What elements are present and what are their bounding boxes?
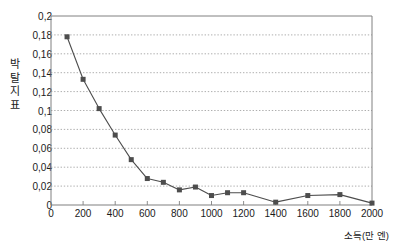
data-point-marker[interactable] <box>65 34 70 39</box>
data-point-marker[interactable] <box>225 190 230 195</box>
x-axis-ticks <box>83 201 372 205</box>
data-point-marker[interactable] <box>81 77 86 82</box>
data-point-marker[interactable] <box>177 187 182 192</box>
data-point-marker[interactable] <box>305 193 310 198</box>
plot-area <box>0 0 399 247</box>
data-point-marker[interactable] <box>113 133 118 138</box>
chart-container: 박 탈 지 표 0,20,180,160,140,120,10,080,060,… <box>0 0 399 247</box>
data-point-marker[interactable] <box>241 190 246 195</box>
data-point-marker[interactable] <box>129 157 134 162</box>
data-point-marker[interactable] <box>209 193 214 198</box>
data-point-marker[interactable] <box>337 192 342 197</box>
data-point-marker[interactable] <box>97 106 102 111</box>
data-line <box>67 37 372 203</box>
data-point-marker[interactable] <box>145 176 150 181</box>
data-markers <box>65 34 375 205</box>
data-point-marker[interactable] <box>273 200 278 205</box>
data-point-marker[interactable] <box>370 201 375 206</box>
data-point-marker[interactable] <box>193 185 198 190</box>
data-point-marker[interactable] <box>161 180 166 185</box>
